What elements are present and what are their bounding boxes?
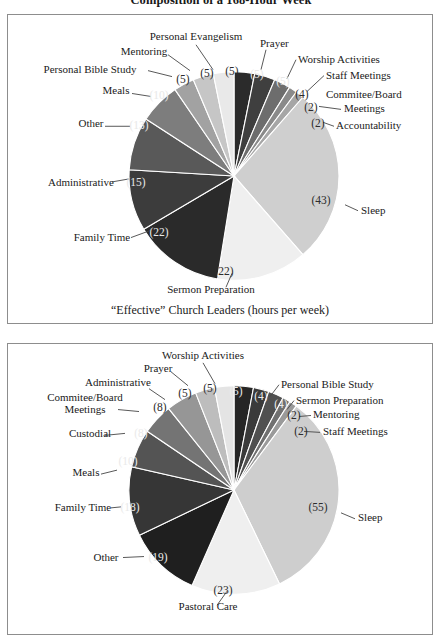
pie-value-label: (23) bbox=[213, 584, 232, 597]
leader-line bbox=[345, 205, 358, 211]
pie-category-label: Personal Bible Study bbox=[281, 378, 374, 390]
pie-category-label: Accountability bbox=[336, 119, 402, 131]
leader-line bbox=[341, 513, 355, 519]
pie-category-label: Prayer bbox=[260, 37, 289, 49]
pie-value-label: (5) bbox=[178, 387, 192, 400]
pie-category-label: Custodial bbox=[69, 427, 111, 439]
pie-category-label: Family Time bbox=[55, 501, 112, 513]
pie-category-label: Other bbox=[93, 551, 118, 563]
pie-value-label: (4) bbox=[295, 88, 309, 101]
pie-value-label: (5) bbox=[203, 382, 217, 395]
pie-value-label: (5) bbox=[176, 73, 190, 86]
pie-category-label: Mentoring bbox=[121, 45, 168, 57]
pie-value-label: (55) bbox=[308, 501, 327, 514]
pie-category-label: Administrative bbox=[85, 376, 151, 388]
pie-category-label: Meetings bbox=[344, 102, 385, 114]
pie-category-label: Administrative bbox=[48, 176, 114, 188]
pie-category-label: Pastoral Care bbox=[179, 600, 238, 612]
pie-category-label: Sermon Preparation bbox=[167, 283, 255, 295]
pie-value-label: (2) bbox=[294, 425, 308, 438]
pie-category-label: Prayer bbox=[144, 362, 173, 374]
leader-line bbox=[123, 557, 144, 558]
pie-value-label: (22) bbox=[149, 226, 168, 239]
pie-category-label: Staff Meetings bbox=[326, 69, 391, 81]
pie-value-label: (8) bbox=[153, 401, 167, 414]
pie-category-label: Sermon Preparation bbox=[296, 394, 384, 406]
pie-category-label: Mentoring bbox=[313, 409, 360, 421]
pie-category-label: Worship Activities bbox=[162, 349, 244, 361]
leader-line bbox=[132, 93, 151, 96]
pie-category-label: Meals bbox=[103, 85, 130, 97]
pie-category-label: Sleep bbox=[361, 204, 386, 216]
pie-category-label: Commitee/Board bbox=[47, 391, 123, 403]
pie-value-label: (5) bbox=[225, 65, 239, 78]
pie-value-label: (15) bbox=[126, 176, 145, 189]
pie-category-label: Worship Activities bbox=[298, 53, 380, 65]
pie-value-label: (5) bbox=[276, 75, 290, 88]
leader-line bbox=[171, 372, 188, 386]
pie-category-label: Personal Evangelism bbox=[150, 30, 243, 42]
pie-value-label: (19) bbox=[148, 552, 167, 565]
pie-value-label: (2) bbox=[311, 117, 325, 130]
pie-value-label: (18) bbox=[120, 501, 139, 514]
pie-category-label: Meals bbox=[73, 466, 100, 478]
pie-chart-typical-leaders: (5)(4)(4)(2)(2)(55)(23)(19)(18)(10)(8)(8… bbox=[8, 344, 433, 634]
pie-category-label: Sleep bbox=[358, 511, 383, 523]
chart-panel-typical-leaders: (5)(4)(4)(2)(2)(55)(23)(19)(18)(10)(8)(8… bbox=[7, 343, 433, 635]
pie-value-label: (5) bbox=[229, 385, 243, 398]
pie-chart-effective-leaders: (5)(5)(4)(2)(2)(43)(22)(22)(15)(13)(10)(… bbox=[8, 15, 433, 323]
leader-line bbox=[118, 410, 139, 412]
pie-category-label: Staff Meetings bbox=[323, 425, 388, 437]
pie-value-label: (5) bbox=[200, 67, 214, 80]
pie-value-label: (5) bbox=[250, 68, 264, 81]
panel-caption-effective-leaders: “Effective” Church Leaders (hours per we… bbox=[8, 303, 432, 318]
pie-value-label: (10) bbox=[149, 89, 168, 102]
pie-value-label: (2) bbox=[304, 101, 318, 114]
pie-category-label: Other bbox=[78, 117, 103, 129]
leader-line bbox=[203, 363, 215, 384]
pie-value-label: (43) bbox=[311, 194, 330, 207]
pie-value-label: (8) bbox=[134, 427, 148, 440]
pie-category-label: Meetings bbox=[65, 403, 106, 415]
pie-value-label: (10) bbox=[118, 455, 137, 468]
figure-title: Composition of a 168-Hour Week bbox=[0, 0, 442, 7]
leader-line bbox=[168, 55, 190, 71]
leader-line bbox=[101, 470, 117, 474]
pie-category-label: Personal Bible Study bbox=[44, 63, 137, 75]
chart-panel-effective-leaders: (5)(5)(4)(2)(2)(43)(22)(22)(15)(13)(10)(… bbox=[7, 14, 433, 324]
pie-category-label: Commitee/Board bbox=[326, 88, 402, 100]
leader-line bbox=[307, 76, 324, 92]
pie-category-label: Family Time bbox=[74, 231, 131, 243]
leader-line bbox=[319, 106, 341, 109]
pie-value-label: (22) bbox=[214, 265, 233, 278]
pie-value-label: (4) bbox=[254, 390, 268, 403]
pie-value-label: (2) bbox=[287, 410, 301, 423]
leader-line bbox=[148, 71, 172, 77]
pie-value-label: (13) bbox=[129, 119, 148, 132]
leader-line bbox=[149, 389, 165, 400]
pie-value-label: (4) bbox=[274, 398, 288, 411]
